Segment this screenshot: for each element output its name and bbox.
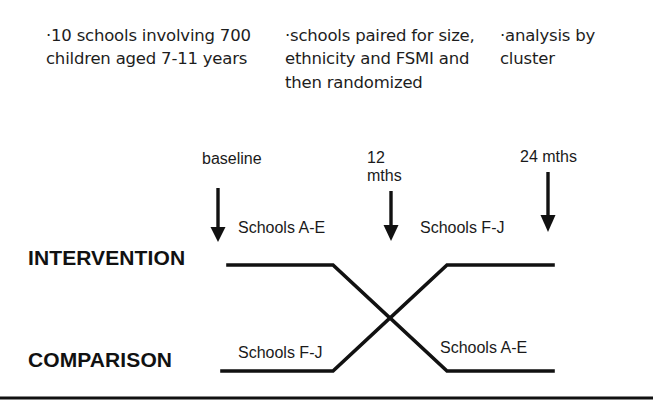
allocation-comparison-period-2: Schools A-E xyxy=(440,339,527,357)
down-arrow-baseline xyxy=(211,188,226,242)
down-arrow-24-months xyxy=(541,172,556,232)
bullet-block-analysis: ·analysis by cluster xyxy=(500,24,650,71)
intervention-arm-line xyxy=(228,265,553,318)
allocation-intervention-period-1: Schools A-E xyxy=(238,219,325,237)
arm-label-comparison: COMPARISON xyxy=(28,348,172,372)
down-arrow-12-months xyxy=(384,191,399,241)
timeline-label-12-months: 12 mths xyxy=(367,149,402,185)
bullet-block-pairing: ·schools paired for size, ethnicity and … xyxy=(285,24,485,94)
slide-canvas: ·10 schools involving 700 children aged … xyxy=(0,0,653,404)
allocation-intervention-period-2: Schools F-J xyxy=(420,219,504,237)
bullet-block-sample: ·10 schools involving 700 children aged … xyxy=(46,24,296,71)
arm-label-intervention: INTERVENTION xyxy=(28,246,185,270)
timeline-label-baseline: baseline xyxy=(202,150,262,168)
allocation-comparison-period-1: Schools F-J xyxy=(238,344,322,362)
timeline-label-24-months: 24 mths xyxy=(520,148,577,166)
